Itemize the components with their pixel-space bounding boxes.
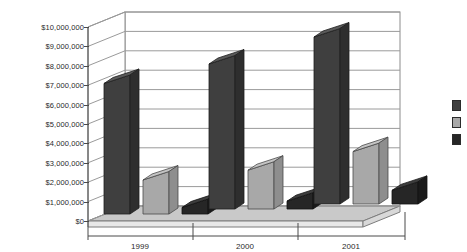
y-tick-label-5000000: $5,000,000 — [6, 120, 84, 129]
y-tick-9000000 — [84, 46, 89, 47]
y-tick-label-2000000: $2,000,000 — [6, 178, 84, 187]
y-tick-1000000 — [84, 202, 89, 203]
y-tick-5000000 — [84, 124, 89, 125]
y-tick-label-10000000: $10,000,000 — [6, 23, 84, 32]
y-tick-label-6000000: $6,000,000 — [6, 100, 84, 109]
y-tick-10000000 — [84, 27, 89, 28]
y-tick-label-7000000: $7,000,000 — [6, 81, 84, 90]
y-tick-8000000 — [84, 66, 89, 67]
y-tick-7000000 — [84, 85, 89, 86]
legend — [452, 100, 467, 150]
legend-swatch-series-3 — [452, 134, 461, 145]
y-tick-4000000 — [84, 143, 89, 144]
y-axis-labels: $10,000,000 $9,000,000 $8,000,000 $7,000… — [0, 0, 84, 252]
y-tick-2000000 — [84, 182, 89, 183]
chart-3d-column: $10,000,000 $9,000,000 $8,000,000 $7,000… — [0, 0, 467, 252]
y-tick-3000000 — [84, 163, 89, 164]
x-category-label-2001: 2001 — [342, 242, 360, 251]
y-tick-label-1000000: $1,000,000 — [6, 197, 84, 206]
x-category-label-1999: 1999 — [131, 242, 149, 251]
y-tick-label-3000000: $3,000,000 — [6, 158, 84, 167]
y-tick-label-0: $0 — [6, 217, 84, 226]
y-tick-label-4000000: $4,000,000 — [6, 139, 84, 148]
y-tick-label-9000000: $9,000,000 — [6, 42, 84, 51]
legend-swatch-series-1 — [452, 100, 461, 111]
legend-swatch-series-2 — [452, 117, 461, 128]
y-tick-6000000 — [84, 105, 89, 106]
y-tick-0 — [84, 221, 89, 222]
x-category-label-2000: 2000 — [236, 242, 254, 251]
y-tick-label-8000000: $8,000,000 — [6, 61, 84, 70]
